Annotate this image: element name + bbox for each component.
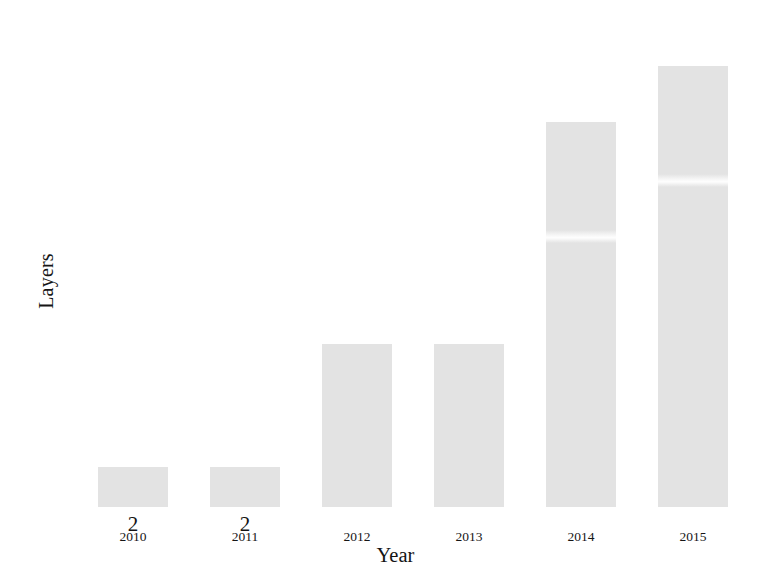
- bar-rect[interactable]: [210, 467, 280, 507]
- plot-area: 2 2010 2 2011 8 2012 8 2013 19 2014: [0, 0, 763, 588]
- bar-rect[interactable]: [322, 344, 392, 507]
- bar-rect[interactable]: [658, 66, 728, 507]
- bar-rect[interactable]: [546, 122, 616, 507]
- x-axis-title-text: Year: [377, 544, 415, 566]
- x-axis-title: Year: [0, 542, 763, 568]
- bar-rect[interactable]: [98, 467, 168, 507]
- bar-rect[interactable]: [434, 344, 504, 507]
- bar-chart: Layers 2 2010 2 2011 8 2012 8 2013 19: [0, 0, 763, 588]
